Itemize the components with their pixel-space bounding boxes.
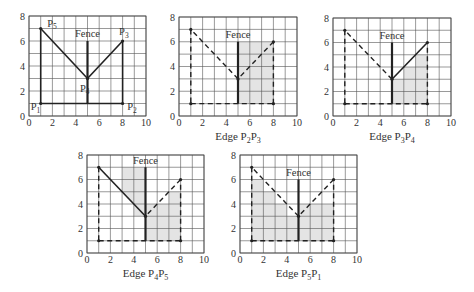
vertex-P5 (97, 166, 100, 169)
edge-P3P4 (88, 41, 123, 79)
vertex-P4 (144, 215, 147, 218)
y-tick-label: 0 (170, 111, 175, 122)
panel-edge-p2p3: 024681002468FenceEdge P2P3 (170, 12, 302, 145)
vertex-P2 (272, 102, 275, 105)
fence-label: Fence (286, 167, 311, 178)
panel-caption: Edge P4P5 (123, 267, 169, 282)
vertex-P3 (272, 40, 275, 43)
x-tick-label: 10 (199, 254, 209, 265)
y-tick-label: 4 (231, 199, 236, 210)
vertex-P3 (121, 39, 124, 42)
x-tick-label: 8 (425, 117, 430, 128)
vertex-P2 (121, 102, 124, 105)
x-tick-label: 10 (292, 117, 302, 128)
vertex-P2 (426, 102, 429, 105)
vertex-P2 (179, 239, 182, 242)
x-tick-label: 6 (308, 254, 313, 265)
vertex-P4 (236, 77, 239, 80)
x-tick-label: 6 (155, 254, 160, 265)
x-tick-label: 4 (131, 254, 136, 265)
y-tick-label: 0 (231, 248, 236, 259)
y-tick-label: 4 (20, 61, 25, 72)
y-tick-label: 6 (170, 36, 175, 47)
fence-visibility-figure: 024681002468FenceP1P2P3P4P5024681002468F… (0, 0, 474, 292)
y-tick-label: 0 (324, 111, 329, 122)
shaded-region (252, 180, 334, 241)
x-tick-label: 8 (120, 117, 125, 128)
vertex-P5 (39, 27, 42, 30)
y-tick-label: 2 (324, 86, 329, 97)
y-tick-label: 8 (324, 13, 329, 24)
x-tick-label: 6 (247, 117, 252, 128)
y-tick-label: 4 (170, 61, 175, 72)
vertex-P3 (426, 41, 429, 44)
x-tick-label: 4 (73, 117, 78, 128)
fence-label: Fence (133, 155, 158, 166)
y-tick-label: 8 (20, 11, 25, 22)
x-tick-label: 2 (354, 117, 359, 128)
y-tick-label: 4 (324, 62, 329, 73)
x-tick-label: 10 (446, 117, 456, 128)
x-tick-label: 0 (27, 117, 32, 128)
vertex-P4 (390, 78, 393, 81)
y-tick-label: 4 (78, 199, 83, 210)
vertex-P4 (297, 215, 300, 218)
x-tick-label: 8 (271, 117, 276, 128)
panel-polygon: 024681002468FenceP1P2P3P4P5 (20, 11, 151, 129)
vertex-P3 (179, 178, 182, 181)
y-tick-label: 6 (20, 36, 25, 47)
y-tick-label: 8 (231, 150, 236, 161)
vertex-P5 (343, 29, 346, 32)
vertex-P1 (250, 239, 253, 242)
x-tick-label: 2 (261, 254, 266, 265)
vertex-P3 (332, 178, 335, 181)
figure-stage: 024681002468FenceP1P2P3P4P5024681002468F… (0, 0, 474, 292)
y-tick-label: 6 (78, 174, 83, 185)
y-tick-label: 0 (20, 111, 25, 122)
fence-label: Fence (379, 30, 404, 41)
x-tick-label: 0 (177, 117, 182, 128)
x-tick-label: 0 (331, 117, 336, 128)
panel-caption: Edge P5P1 (276, 267, 322, 282)
panel-edge-p5p1: 024681002468FenceEdge P5P1 (231, 150, 362, 282)
y-tick-label: 8 (170, 12, 175, 23)
vertex-P1 (97, 239, 100, 242)
x-tick-label: 6 (401, 117, 406, 128)
y-tick-label: 0 (78, 248, 83, 259)
vertex-P5 (250, 166, 253, 169)
point-label: P5 (47, 18, 57, 32)
x-tick-label: 0 (238, 254, 243, 265)
vertex-P4 (86, 77, 89, 80)
y-tick-label: 8 (78, 150, 83, 161)
y-tick-label: 6 (324, 37, 329, 48)
vertex-P5 (189, 28, 192, 31)
x-tick-label: 10 (141, 117, 151, 128)
x-tick-label: 8 (178, 254, 183, 265)
y-tick-label: 2 (78, 223, 83, 234)
x-tick-label: 4 (224, 117, 229, 128)
vertex-P2 (332, 239, 335, 242)
panel-caption: Edge P2P3 (215, 130, 261, 145)
y-tick-label: 6 (231, 174, 236, 185)
x-tick-label: 4 (378, 117, 383, 128)
x-tick-label: 0 (85, 254, 90, 265)
y-tick-label: 2 (170, 86, 175, 97)
y-tick-label: 2 (231, 223, 236, 234)
vertex-P1 (39, 102, 42, 105)
vertex-P1 (343, 102, 346, 105)
vertex-P1 (189, 102, 192, 105)
x-tick-label: 10 (352, 254, 362, 265)
x-tick-label: 8 (331, 254, 336, 265)
panel-edge-p4p5: 024681002468FenceEdge P4P5 (78, 150, 209, 282)
x-tick-label: 2 (50, 117, 55, 128)
fence-label: Fence (75, 28, 100, 39)
x-tick-label: 6 (97, 117, 102, 128)
panel-caption: Edge P3P4 (369, 130, 415, 145)
x-tick-label: 2 (200, 117, 205, 128)
y-tick-label: 2 (20, 86, 25, 97)
x-tick-label: 4 (284, 254, 289, 265)
x-tick-label: 2 (108, 254, 113, 265)
panel-edge-p3p4: 024681002468FenceEdge P3P4 (324, 13, 456, 145)
fence-label: Fence (225, 29, 250, 40)
